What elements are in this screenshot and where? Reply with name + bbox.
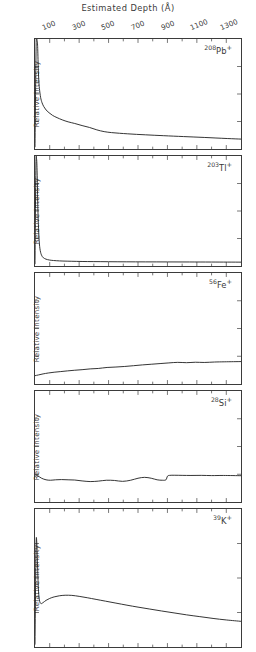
trace-28Si+ xyxy=(35,475,241,482)
panel-203Tl+: Relative Intensity203Tl+ xyxy=(34,155,242,267)
depth-tick-label-900: 900 xyxy=(159,19,175,32)
plot-area-208Pb+ xyxy=(35,39,241,149)
panel-56Fe+: Relative Intensity56Fe+ xyxy=(34,272,242,385)
panel-39K+: Relative Intensity39K+ xyxy=(34,508,242,648)
trace-39K+ xyxy=(35,537,241,644)
plot-area-203Tl+ xyxy=(35,156,241,266)
depth-tick-label-300: 300 xyxy=(70,19,86,32)
depth-tick-label-1300: 1300 xyxy=(219,17,239,32)
panel-28Si+: Relative Intensity28Si+ xyxy=(34,390,242,503)
trace-208Pb+ xyxy=(35,39,241,147)
depth-axis-tick-labels: 10030050070090011001300 xyxy=(34,22,242,38)
panel-208Pb+: Relative Intensity208Pb+ xyxy=(34,38,242,150)
trace-56Fe+ xyxy=(35,362,241,376)
plot-area-56Fe+ xyxy=(35,273,241,384)
sims-depth-profile-figure: Estimated Depth (Å) 10030050070090011001… xyxy=(0,0,256,652)
depth-tick-label-500: 500 xyxy=(100,19,116,32)
plot-area-39K+ xyxy=(35,509,241,647)
depth-tick-label-700: 700 xyxy=(130,19,146,32)
plot-area-28Si+ xyxy=(35,391,241,502)
figure-title: Estimated Depth (Å) xyxy=(0,3,256,13)
depth-tick-label-1100: 1100 xyxy=(189,17,209,32)
depth-tick-label-100: 100 xyxy=(41,19,57,32)
trace-203Tl+ xyxy=(35,156,241,264)
